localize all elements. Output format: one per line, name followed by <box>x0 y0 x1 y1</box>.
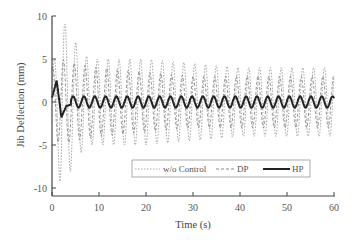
x-tick-label: 50 <box>282 202 292 213</box>
x-tick-label: 10 <box>94 202 104 213</box>
x-axis-title: Time (s) <box>175 219 211 231</box>
x-tick-label: 60 <box>329 202 339 213</box>
y-tick-label: -10 <box>34 183 47 194</box>
x-tick-label: 20 <box>141 202 151 213</box>
series-layer <box>52 25 334 182</box>
jib-deflection-chart: 1050-5-10 0102030405060 Time (s) Jib Def… <box>0 0 355 245</box>
y-axis-title: Jib Deflection (mm) <box>15 62 27 148</box>
y-tick-label: -5 <box>39 140 47 151</box>
y-ticks: 1050-5-10 <box>34 11 56 194</box>
x-ticks: 0102030405060 <box>50 192 340 213</box>
y-tick-label: 5 <box>42 54 47 65</box>
legend-label-hp: HP <box>292 164 304 174</box>
legend: w/o Control DP HP <box>132 160 310 177</box>
legend-label-wo-control: w/o Control <box>163 164 207 174</box>
y-tick-label: 10 <box>37 11 47 22</box>
legend-label-dp: DP <box>237 164 249 174</box>
y-tick-label: 0 <box>42 97 47 108</box>
x-tick-label: 30 <box>188 202 198 213</box>
x-tick-label: 40 <box>235 202 245 213</box>
x-tick-label: 0 <box>50 202 55 213</box>
